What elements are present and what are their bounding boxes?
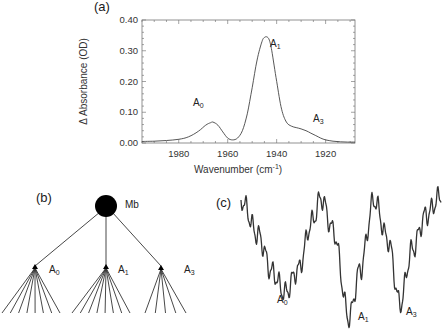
landscape-label-a0: A0 xyxy=(277,294,288,306)
landscape-label-a1: A1 xyxy=(358,311,369,323)
landscape-label-a3: A3 xyxy=(406,306,417,318)
energy-landscape xyxy=(0,0,444,333)
